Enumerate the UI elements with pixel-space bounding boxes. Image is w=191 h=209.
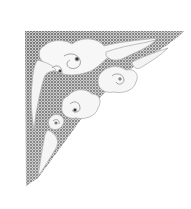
cloud-corner-ornament — [0, 0, 191, 209]
cloud-eye-dot — [75, 57, 79, 61]
cloud-medium — [98, 67, 137, 93]
cloud-ornament-graphic — [0, 0, 191, 209]
cloud-eye-dot — [58, 69, 61, 72]
cloud-eye-dot — [55, 122, 58, 125]
cloud-eye-dot — [73, 108, 77, 112]
cloud-eye-dot — [119, 78, 122, 81]
